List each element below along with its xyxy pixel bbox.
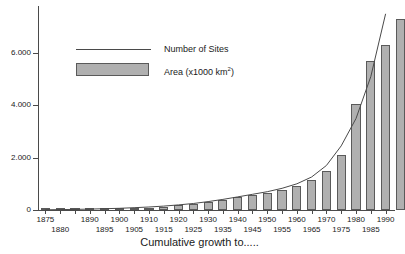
x-tick-mark (193, 210, 194, 214)
x-tick-label: 1950 (254, 215, 280, 224)
x-tick-mark (164, 210, 165, 214)
x-tick-label: 1990 (373, 215, 399, 224)
y-tick-label: 2.000 (0, 154, 31, 162)
x-tick-mark (223, 210, 224, 214)
x-axis-labels-top-row: 1875189019001910192019301940195019601970… (38, 215, 395, 225)
legend-label-area-text: Area (x1000 km (164, 67, 228, 77)
x-tick-mark (386, 210, 387, 214)
x-tick-label: 1965 (299, 225, 325, 234)
x-tick-label: 1930 (195, 215, 221, 224)
x-tick-label: 1895 (92, 225, 118, 234)
x-tick-mark (238, 210, 239, 214)
x-tick-label: 1880 (47, 225, 73, 234)
x-tick-mark (208, 210, 209, 214)
x-tick-label: 1985 (358, 225, 384, 234)
x-tick-label: 1915 (151, 225, 177, 234)
legend-label-area-tail: ) (231, 67, 234, 77)
x-tick-mark (371, 210, 372, 214)
x-tick-mark (119, 210, 120, 214)
x-tick-mark (341, 210, 342, 214)
x-tick-label: 1875 (32, 215, 58, 224)
x-tick-mark (75, 210, 76, 214)
x-tick-label: 1925 (180, 225, 206, 234)
x-tick-mark (267, 210, 268, 214)
x-tick-mark (149, 210, 150, 214)
y-tick-label: 0 (0, 206, 31, 214)
x-axis-title: Cumulative growth to..... (0, 236, 399, 249)
x-tick-label: 1910 (136, 215, 162, 224)
x-tick-mark (312, 210, 313, 214)
x-tick-label: 1970 (313, 215, 339, 224)
legend-line-swatch (76, 49, 151, 50)
x-tick-mark (326, 210, 327, 214)
y-tick-label: 4.000 (0, 101, 31, 109)
line-series-number-of-sites (38, 6, 393, 210)
x-tick-label: 1920 (166, 215, 192, 224)
x-tick-mark (60, 210, 61, 214)
x-tick-mark (105, 210, 106, 214)
x-tick-mark (297, 210, 298, 214)
x-tick-label: 1940 (225, 215, 251, 224)
x-tick-label: 1960 (284, 215, 310, 224)
legend-label-number-of-sites: Number of Sites (164, 44, 229, 55)
x-tick-label: 1975 (328, 225, 354, 234)
x-tick-mark (282, 210, 283, 214)
x-tick-label: 1980 (343, 215, 369, 224)
x-tick-mark (134, 210, 135, 214)
x-axis-labels-bottom-row: 1880189519051915192519351945195519651975… (38, 225, 395, 235)
x-tick-mark (90, 210, 91, 214)
x-tick-mark (179, 210, 180, 214)
x-tick-mark (252, 210, 253, 214)
x-tick-label: 1890 (77, 215, 103, 224)
x-tick-mark (45, 210, 46, 214)
x-tick-label: 1935 (210, 225, 236, 234)
x-tick-label: 1945 (239, 225, 265, 234)
x-tick-label: 1955 (269, 225, 295, 234)
legend-box-swatch (76, 63, 149, 76)
x-tick-label: 1900 (106, 215, 132, 224)
x-tick-label: 1905 (121, 225, 147, 234)
bar (396, 19, 405, 210)
legend-label-area: Area (x1000 km2) (164, 64, 234, 78)
x-tick-mark (356, 210, 357, 214)
y-tick-label: 6.000 (0, 49, 31, 57)
